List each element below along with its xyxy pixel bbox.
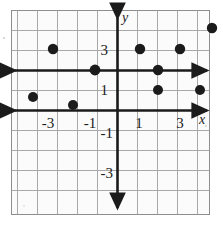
data-point: [153, 65, 163, 75]
x-tick-label-neg3: -3: [42, 115, 55, 131]
y-tick-label-pos1: 1: [101, 82, 109, 98]
data-point: [68, 100, 78, 110]
data-point: [195, 85, 205, 95]
x-tick-label-neg1: -1: [84, 115, 97, 131]
data-point: [135, 44, 145, 54]
data-point: [207, 23, 217, 33]
data-point: [28, 92, 38, 102]
data-point: [153, 85, 163, 95]
data-point: [175, 44, 185, 54]
x-tick-label-pos3: 3: [176, 115, 184, 131]
data-point: [48, 44, 58, 54]
x-tick-label-pos1: 1: [135, 115, 143, 131]
y-tick-label-neg3: -3: [101, 165, 114, 181]
x-axis-label: x: [198, 112, 206, 127]
y-tick-label-neg1: -1: [101, 125, 114, 141]
y-tick-label-pos3: 3: [101, 42, 109, 58]
y-axis-label: y: [120, 10, 129, 25]
coordinate-plane-figure: -3 -1 1 3 3 1 -1 -3 y x: [0, 0, 223, 225]
data-point: [90, 65, 101, 76]
grid-border: [12, 11, 210, 215]
plot-canvas: -3 -1 1 3 3 1 -1 -3 y x: [0, 0, 223, 225]
